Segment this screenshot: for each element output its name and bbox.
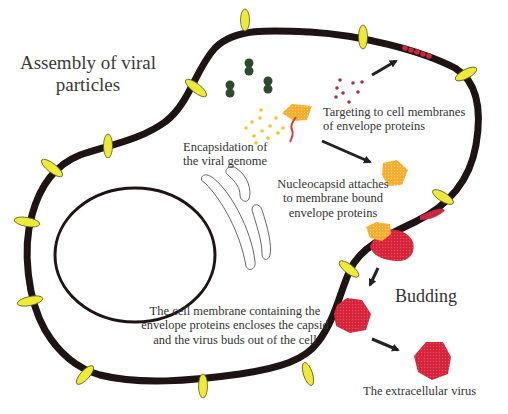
partial-capsid [282,104,312,121]
arrow-release [372,339,398,350]
extracellular-virion [414,342,451,380]
arrow-targeting [372,61,396,75]
label-enclosing: The cell membrane containing the envelop… [125,304,345,347]
arrow-budding [370,268,378,285]
ribosomes [226,59,273,98]
arrow-nucleocapsid [322,141,370,162]
label-budding: Budding [395,286,457,307]
envelope-protein-dots [334,78,364,104]
label-targeting: Targeting to cell membranes of envelope … [323,105,465,134]
golgi-apparatus [201,167,270,270]
diagram-title: Assembly of viral particles [18,52,158,96]
nucleus [55,188,215,322]
label-extracellular: The extracellular virus [363,384,476,398]
label-encapsidation: Encapsidation of the viral genome [183,140,267,169]
label-nucleocapsid: Nucleocapsid attaches to membrane bound … [268,177,398,220]
